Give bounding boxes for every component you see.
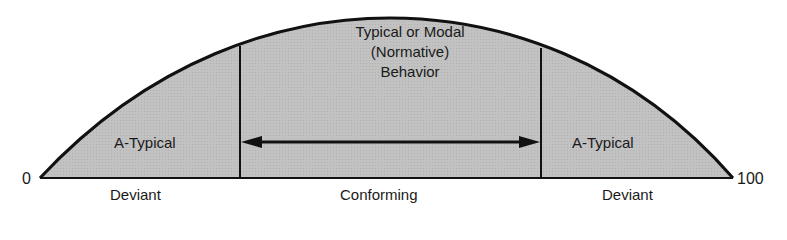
typical-behavior-label: Typical or Modal (Normative) Behavior [290, 22, 530, 82]
right-deviant-label: Deviant [602, 186, 653, 203]
left-atypical-label: A-Typical [114, 134, 176, 151]
title-line-3: Behavior [290, 62, 530, 82]
title-line-1: Typical or Modal [290, 22, 530, 42]
left-deviant-label: Deviant [110, 186, 161, 203]
right-atypical-label: A-Typical [572, 134, 634, 151]
axis-max-label: 100 [737, 170, 764, 188]
conforming-label: Conforming [340, 186, 418, 203]
axis-min-label: 0 [22, 170, 31, 188]
title-line-2: (Normative) [290, 42, 530, 62]
